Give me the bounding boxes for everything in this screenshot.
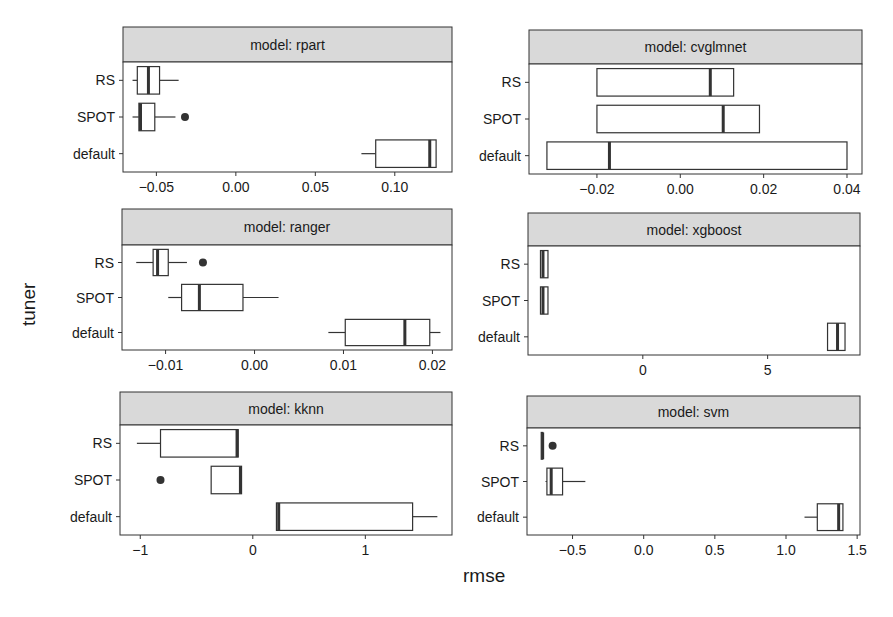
outlier-point bbox=[181, 113, 189, 121]
x-tick-label: 0.0 bbox=[634, 542, 654, 558]
y-tick-label: RS bbox=[502, 74, 521, 90]
y-tick-label: RS bbox=[501, 256, 520, 272]
facet-title: model: ranger bbox=[244, 219, 331, 235]
x-tick-label: −1 bbox=[132, 542, 148, 558]
boxplot-default bbox=[828, 323, 845, 350]
x-axis-title: rmse bbox=[463, 565, 505, 587]
y-tick-label: default bbox=[477, 509, 519, 525]
x-tick-label: 5 bbox=[764, 362, 772, 378]
x-tick-label: 1.0 bbox=[776, 542, 796, 558]
y-tick-label: RS bbox=[500, 438, 519, 454]
facet-title: model: xgboost bbox=[647, 222, 742, 238]
y-tick-label: SPOT bbox=[76, 290, 115, 306]
outlier-point bbox=[199, 259, 207, 267]
outlier-point bbox=[549, 442, 557, 450]
facet-panel-kknn: model: kknnRSSPOTdefault−101 bbox=[70, 392, 452, 558]
x-tick-label: 0.02 bbox=[419, 357, 446, 373]
y-axis-title: tuner bbox=[18, 283, 40, 326]
boxplot-rs bbox=[597, 69, 734, 97]
x-tick-label: −0.02 bbox=[579, 181, 615, 197]
boxplot-rs bbox=[540, 251, 547, 278]
boxplot-default bbox=[328, 319, 440, 345]
boxplot-spot bbox=[540, 287, 547, 314]
x-tick-label: 0 bbox=[249, 542, 257, 558]
y-tick-label: SPOT bbox=[483, 111, 522, 127]
y-tick-label: RS bbox=[96, 72, 115, 88]
x-tick-label: 0.01 bbox=[330, 357, 357, 373]
x-tick-label: 0.5 bbox=[705, 542, 725, 558]
x-tick-label: −0.01 bbox=[148, 357, 184, 373]
y-tick-label: SPOT bbox=[482, 293, 521, 309]
y-tick-label: SPOT bbox=[74, 472, 113, 488]
x-tick-label: 0.10 bbox=[381, 179, 408, 195]
y-tick-label: RS bbox=[95, 255, 114, 271]
x-tick-label: −0.5 bbox=[559, 542, 587, 558]
x-tick-label: 0.04 bbox=[833, 181, 860, 197]
boxplot-default bbox=[547, 142, 847, 170]
faceted-boxplot-chart: model: rpartRSSPOTdefault−0.050.000.050.… bbox=[0, 0, 893, 617]
facet-title: model: cvglmnet bbox=[645, 39, 747, 55]
x-tick-label: −0.05 bbox=[139, 179, 175, 195]
y-tick-label: default bbox=[70, 509, 112, 525]
outlier-point bbox=[157, 476, 165, 484]
y-tick-label: SPOT bbox=[481, 474, 520, 490]
x-tick-label: 1 bbox=[361, 542, 369, 558]
x-tick-label: 0.00 bbox=[667, 181, 694, 197]
facet-panel-rpart: model: rpartRSSPOTdefault−0.050.000.050.… bbox=[73, 27, 452, 195]
y-tick-label: default bbox=[73, 146, 115, 162]
x-tick-label: 0.00 bbox=[241, 357, 268, 373]
y-tick-label: RS bbox=[93, 435, 112, 451]
boxplot-spot bbox=[597, 105, 760, 133]
facet-panel-cvglmnet: model: cvglmnetRSSPOTdefault−0.020.000.0… bbox=[479, 30, 862, 197]
plot-area bbox=[528, 246, 860, 355]
y-tick-label: default bbox=[478, 329, 520, 345]
y-tick-label: default bbox=[72, 325, 114, 341]
y-tick-label: default bbox=[479, 148, 521, 164]
x-tick-label: 0.02 bbox=[750, 181, 777, 197]
facet-title: model: rpart bbox=[250, 37, 325, 53]
x-tick-label: 0 bbox=[639, 362, 647, 378]
facet-panel-xgboost: model: xgboostRSSPOTdefault05 bbox=[478, 213, 860, 378]
x-tick-label: 1.5 bbox=[847, 542, 867, 558]
facet-panel-ranger: model: rangerRSSPOTdefault−0.010.000.010… bbox=[72, 209, 452, 373]
facet-panel-svm: model: svmRSSPOTdefault−0.50.00.51.01.5 bbox=[477, 396, 867, 558]
facet-title: model: svm bbox=[658, 404, 730, 420]
x-tick-label: 0.00 bbox=[222, 179, 249, 195]
x-tick-label: 0.05 bbox=[302, 179, 329, 195]
facet-title: model: kknn bbox=[248, 401, 323, 417]
y-tick-label: SPOT bbox=[77, 109, 116, 125]
